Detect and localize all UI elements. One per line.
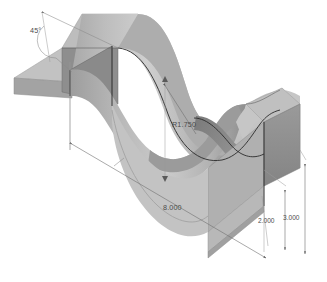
radius-r1750-label: R1.750 [172, 120, 196, 129]
technical-drawing-canvas: 45° R1.750 8.000 2.000 3.000 [0, 0, 327, 282]
height3000-ext-top [300, 150, 306, 160]
length-8000-label: 8.000 [163, 203, 182, 212]
height-2000-label: 2.000 [258, 217, 275, 224]
height-3000-label: 3.000 [283, 214, 300, 221]
angle-45-label: 45° [30, 26, 41, 35]
isometric-wave-block-svg: 45° R1.750 8.000 2.000 3.000 [0, 0, 327, 282]
angle-vertical-ref [42, 12, 50, 62]
